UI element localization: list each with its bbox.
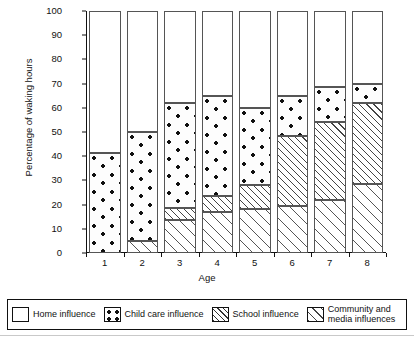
segment-school-age-6 (277, 136, 309, 206)
legend-label-community: Community and media influences (328, 305, 396, 325)
segment-school-age-5 (239, 185, 271, 209)
segment-home-age-2 (127, 11, 159, 132)
bottom-divider (0, 335, 414, 336)
x-tick-label: 2 (122, 257, 162, 268)
legend-label-home: Home influence (33, 310, 96, 320)
segment-childcare-age-5 (239, 108, 271, 185)
x-tick-label: 4 (197, 257, 237, 268)
y-tick-label: 30 (32, 176, 62, 186)
y-tick-label: 20 (32, 200, 62, 210)
x-tick-label: 7 (310, 257, 350, 268)
x-axis-label: Age (0, 272, 414, 283)
bar-age-7 (314, 11, 346, 253)
segment-community-age-4 (202, 212, 234, 253)
segment-childcare-age-1 (89, 153, 121, 253)
plot-area: Percentage of waking hours 0102030405060… (0, 0, 414, 262)
segment-home-age-8 (352, 11, 384, 84)
x-tick-mark (86, 253, 87, 257)
bar-age-2 (127, 11, 159, 253)
x-tick-label: 5 (235, 257, 275, 268)
x-tick-label: 8 (347, 257, 387, 268)
legend-item-childcare: Child care influence (100, 307, 208, 322)
y-tick-label: 0 (32, 248, 62, 258)
bar-age-6 (277, 11, 309, 253)
x-tick-mark (386, 253, 387, 257)
bar-age-5 (239, 11, 271, 253)
segment-childcare-age-6 (277, 96, 309, 136)
x-tick-label: 1 (85, 257, 125, 268)
segment-community-age-2 (127, 241, 159, 253)
segment-community-age-5 (239, 209, 271, 253)
y-tick-label: 70 (32, 79, 62, 89)
segment-school-age-8 (352, 103, 384, 184)
bar-age-1 (89, 11, 121, 253)
chart-legend: Home influenceChild care influenceSchool… (7, 299, 407, 330)
y-tick-label: 10 (32, 224, 62, 234)
stacked-bar-chart: Percentage of waking hours 0102030405060… (0, 0, 414, 338)
y-tick-label: 90 (32, 30, 62, 40)
segment-community-age-7 (314, 200, 346, 253)
segment-home-age-4 (202, 11, 234, 96)
y-tick-label: 60 (32, 103, 62, 113)
legend-label-childcare: Child care influence (125, 310, 204, 320)
segment-childcare-age-8 (352, 84, 384, 103)
legend-label-school: School influence (233, 310, 299, 320)
bar-age-8 (352, 11, 384, 253)
segment-home-age-1 (89, 11, 121, 153)
y-tick-label: 80 (32, 55, 62, 65)
legend-swatch-home-icon (12, 307, 29, 322)
legend-swatch-community-icon (307, 307, 324, 322)
segment-school-age-4 (202, 196, 234, 212)
x-tick-label: 6 (272, 257, 312, 268)
segment-community-age-6 (277, 206, 309, 253)
bar-series-container (86, 11, 386, 253)
segment-community-age-3 (164, 220, 196, 253)
legend-item-school: School influence (208, 307, 303, 322)
segment-childcare-age-7 (314, 87, 346, 122)
legend-item-community: Community and media influences (303, 305, 400, 325)
legend-swatch-school-icon (212, 307, 229, 322)
segment-school-age-3 (164, 208, 196, 220)
segment-home-age-6 (277, 11, 309, 96)
legend-item-home: Home influence (8, 307, 100, 322)
segment-community-age-8 (352, 184, 384, 253)
segment-home-age-3 (164, 11, 196, 103)
x-tick-label: 3 (160, 257, 200, 268)
bar-age-3 (164, 11, 196, 253)
y-tick-label: 100 (32, 6, 62, 16)
segment-childcare-age-2 (127, 132, 159, 241)
segment-home-age-5 (239, 11, 271, 108)
y-tick-label: 40 (32, 151, 62, 161)
segment-childcare-age-4 (202, 96, 234, 196)
bar-age-4 (202, 11, 234, 253)
segment-home-age-7 (314, 11, 346, 87)
segment-childcare-age-3 (164, 103, 196, 208)
legend-swatch-childcare-icon (104, 307, 121, 322)
y-tick-label: 50 (32, 127, 62, 137)
segment-school-age-7 (314, 122, 346, 199)
